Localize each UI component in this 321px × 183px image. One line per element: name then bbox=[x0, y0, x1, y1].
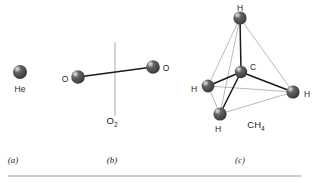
figure-canvas: He OOO2 HCHHHCH4 (a)(b)(c) bbox=[0, 0, 321, 183]
panel-captions: (a)(b)(c) bbox=[8, 155, 245, 165]
panel-caption-a: (a) bbox=[8, 155, 19, 165]
tetrahedron-edge bbox=[220, 92, 293, 114]
atom-label-c: C bbox=[250, 62, 256, 72]
molecular-formula: O2 bbox=[106, 115, 117, 128]
molecular-formula: CH4 bbox=[247, 119, 265, 132]
atom-highlight-icon bbox=[202, 80, 215, 93]
atom-highlight-icon bbox=[235, 66, 247, 78]
atom-highlight-icon bbox=[146, 60, 160, 74]
chemical-bond bbox=[220, 72, 241, 114]
atom-label-h: H bbox=[191, 84, 197, 94]
atom-highlight-icon bbox=[71, 70, 85, 84]
panel-helium: He bbox=[13, 65, 27, 94]
panel-caption-b: (b) bbox=[107, 155, 118, 165]
panel-oxygen: OOO2 bbox=[62, 42, 170, 128]
atom-highlight-icon bbox=[233, 11, 246, 24]
panel-caption-c: (c) bbox=[235, 155, 245, 165]
tetrahedron-edge bbox=[220, 18, 240, 114]
atom-label-h: H bbox=[237, 3, 243, 13]
atom-label-h: H bbox=[304, 89, 310, 99]
tetrahedron-edge bbox=[240, 18, 293, 92]
chemical-bond bbox=[240, 18, 241, 72]
tetrahedron-edge bbox=[208, 18, 240, 86]
atom-highlight-icon bbox=[213, 107, 226, 120]
atom-highlight-icon bbox=[286, 85, 299, 98]
molecular-models-figure: He OOO2 HCHHHCH4 (a)(b)(c) bbox=[0, 0, 321, 183]
atom-label-he: He bbox=[15, 84, 26, 94]
atom-label-o: O bbox=[163, 63, 170, 73]
atom-highlight-icon bbox=[13, 65, 27, 79]
atom-label-h: H bbox=[215, 124, 221, 134]
atom-label-o: O bbox=[62, 74, 69, 84]
panel-methane: HCHHHCH4 bbox=[191, 3, 310, 134]
